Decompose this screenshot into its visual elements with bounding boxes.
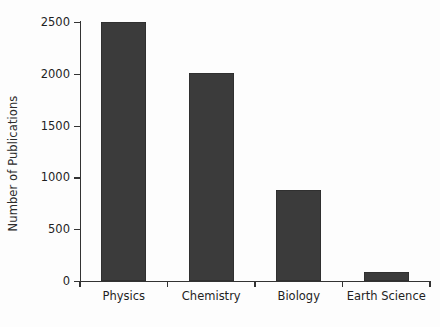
y-tick-label: 0	[63, 274, 70, 288]
x-tick-mark	[79, 281, 80, 287]
y-tick-label: 2000	[41, 67, 70, 81]
bar	[189, 73, 234, 281]
x-tick-mark	[254, 281, 255, 287]
y-tick-label: 1000	[41, 170, 70, 184]
y-tick-label: 2500	[41, 15, 70, 29]
y-tick-label: 500	[48, 222, 70, 236]
y-tick-label: 1500	[41, 119, 70, 133]
bar	[276, 190, 321, 281]
x-tick-label: Biology	[278, 289, 320, 303]
x-tick-label: Physics	[102, 289, 145, 303]
bar	[364, 272, 409, 281]
x-tick-label: Earth Science	[347, 289, 426, 303]
y-axis-title: Number of Publications	[0, 0, 26, 327]
x-tick-mark	[429, 281, 430, 287]
x-tick-mark	[342, 281, 343, 287]
bar	[101, 22, 146, 281]
x-tick-mark	[167, 281, 168, 287]
x-tick-label: Chemistry	[182, 289, 241, 303]
plot-area	[80, 22, 430, 281]
bar-chart: Number of Publications 05001000150020002…	[0, 0, 440, 327]
